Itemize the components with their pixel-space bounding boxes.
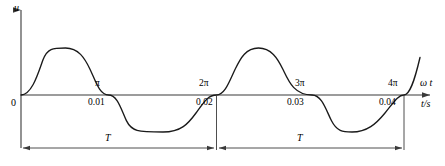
x-axis-label-time: t/s	[421, 99, 430, 109]
period-label-first: T	[105, 133, 111, 143]
tick-label-time-002: 0.02	[196, 98, 213, 108]
tick-label-angular-2pi: 2π	[199, 79, 209, 89]
waveform-figure: u 0 π 2π 3π 4π 0.01 0.02 0.03 0.04 ω t t…	[0, 0, 445, 166]
tick-label-angular-pi: π	[95, 79, 100, 89]
tick-label-angular-3pi: 3π	[295, 79, 305, 89]
tick-label-time-004: 0.04	[379, 98, 396, 108]
tick-label-angular-4pi: 4π	[388, 79, 398, 89]
waveform-canvas	[0, 0, 445, 166]
y-axis-label: u	[14, 3, 19, 13]
sine-curve	[21, 48, 420, 132]
period-label-second: T	[297, 133, 303, 143]
origin-label: 0	[11, 98, 16, 108]
tick-label-time-001: 0.01	[88, 98, 105, 108]
x-axis-label-angular: ω t	[420, 78, 432, 88]
tick-label-time-003: 0.03	[287, 98, 304, 108]
